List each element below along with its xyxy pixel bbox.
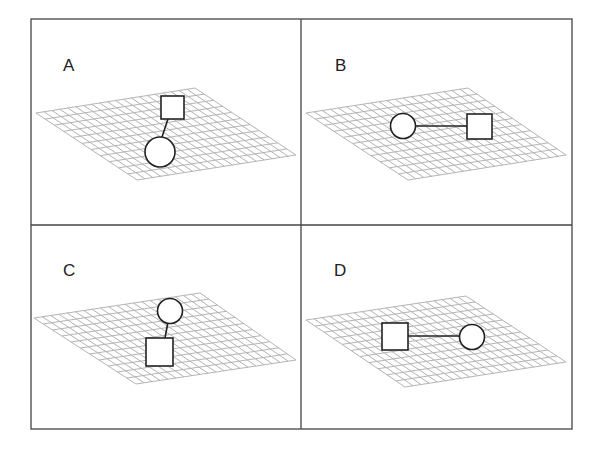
grid-line bbox=[100, 131, 259, 156]
panel-label: C bbox=[63, 261, 75, 280]
grid-line bbox=[171, 92, 272, 159]
grid-mesh bbox=[306, 88, 566, 180]
grid-line bbox=[389, 143, 548, 168]
grid-line bbox=[399, 149, 557, 174]
grid-line bbox=[380, 137, 539, 162]
panel-d: D bbox=[306, 261, 566, 387]
grid-line bbox=[351, 326, 511, 350]
figure: A B C D bbox=[0, 0, 595, 451]
grid-line bbox=[187, 89, 288, 156]
grid-line bbox=[108, 342, 270, 366]
square-node bbox=[382, 323, 408, 350]
circle-node bbox=[145, 137, 175, 167]
grid-line bbox=[330, 109, 431, 176]
square-node bbox=[467, 114, 492, 139]
grid-line bbox=[179, 91, 280, 158]
grid-line bbox=[396, 356, 557, 381]
grid-line bbox=[62, 311, 226, 336]
grid-line bbox=[36, 113, 137, 180]
grid-line bbox=[195, 88, 296, 155]
grid-line bbox=[109, 137, 268, 162]
grid-line bbox=[60, 109, 161, 176]
grid-mesh bbox=[306, 296, 566, 387]
square-node bbox=[161, 96, 184, 119]
panel-label: D bbox=[334, 261, 346, 280]
grid-line bbox=[387, 350, 548, 375]
grid-line bbox=[53, 305, 218, 330]
grid-line bbox=[99, 336, 261, 360]
grid-line bbox=[338, 108, 439, 175]
grid-line bbox=[306, 296, 466, 320]
grid-line bbox=[117, 348, 278, 372]
panel-a: A bbox=[36, 56, 296, 180]
panel-b: B bbox=[306, 56, 566, 180]
grid-line bbox=[362, 125, 522, 150]
grid-line bbox=[408, 155, 566, 180]
circle-node bbox=[158, 299, 183, 324]
grid-line bbox=[52, 111, 153, 178]
panel-label: B bbox=[335, 56, 346, 75]
circle-node bbox=[391, 114, 416, 139]
panel-label: A bbox=[63, 56, 75, 75]
grid-line bbox=[54, 100, 213, 125]
grid-line bbox=[44, 112, 145, 179]
grid-line bbox=[363, 104, 464, 171]
grid-line bbox=[405, 362, 566, 387]
grid-line bbox=[64, 106, 223, 131]
circle-node bbox=[460, 325, 485, 350]
grid-line bbox=[73, 112, 232, 137]
grid-line bbox=[43, 299, 208, 324]
panel-c: C bbox=[34, 261, 296, 384]
square-node bbox=[146, 338, 173, 366]
grid-line bbox=[306, 88, 468, 113]
grid-line bbox=[119, 143, 278, 168]
